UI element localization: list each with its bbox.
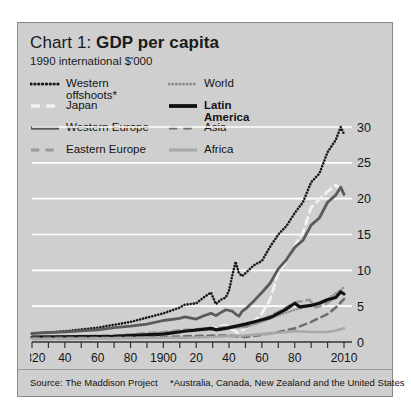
chart-panel: Chart 1: GDP per capita 1990 internation… <box>17 22 393 397</box>
x-axis-tick-label: 60 <box>255 351 269 365</box>
x-axis-tick-label: 1820 <box>30 351 46 365</box>
x-axis-tick-label: 60 <box>91 351 105 365</box>
legend-item-world[interactable]: World <box>168 77 318 94</box>
y-axis-tick-label: 20 <box>357 192 371 206</box>
x-axis-tick-label: 80 <box>288 351 302 365</box>
legend-label: World <box>204 77 234 90</box>
legend-item-western-offshoots[interactable]: Western offshoots* <box>30 77 180 94</box>
title-block: Chart 1: GDP per capita 1990 internation… <box>30 33 360 67</box>
legend-swatch-icon <box>30 77 60 91</box>
x-axis-tick-label: 20 <box>190 351 204 365</box>
x-axis-tick-label: 40 <box>58 351 72 365</box>
x-axis-tick-label: 80 <box>124 351 138 365</box>
y-axis-tick-label: 30 <box>357 121 371 135</box>
plot-area: 30252015105018204060801900204060802010 <box>30 101 384 388</box>
x-axis-tick-label: 2010 <box>331 351 358 365</box>
legend-swatch-icon <box>168 77 198 91</box>
chart-subtitle: 1990 international $'000 <box>30 55 360 67</box>
y-axis-tick-label: 5 <box>357 300 364 314</box>
y-axis-tick-label: 10 <box>357 264 371 278</box>
x-axis-tick-label: 40 <box>222 351 236 365</box>
chart-plot-svg: 30252015105018204060801900204060802010 <box>30 101 384 388</box>
footer-source-text: Source: The Maddison Project <box>30 377 158 388</box>
chart-title-prefix: Chart 1: <box>30 33 96 52</box>
y-axis-tick-label: 0 <box>357 336 364 350</box>
chart-title-main: GDP per capita <box>96 33 219 52</box>
page-title: Chart 1: GDP per capita <box>30 33 360 53</box>
y-axis-tick-label: 15 <box>357 228 371 242</box>
footer-note-text: *Australia, Canada, New Zealand and the … <box>170 377 404 388</box>
y-axis-tick-label: 25 <box>357 156 371 170</box>
chart-footer: Source: The Maddison Project *Australia,… <box>18 369 392 396</box>
x-axis-tick-label: 1900 <box>150 351 177 365</box>
